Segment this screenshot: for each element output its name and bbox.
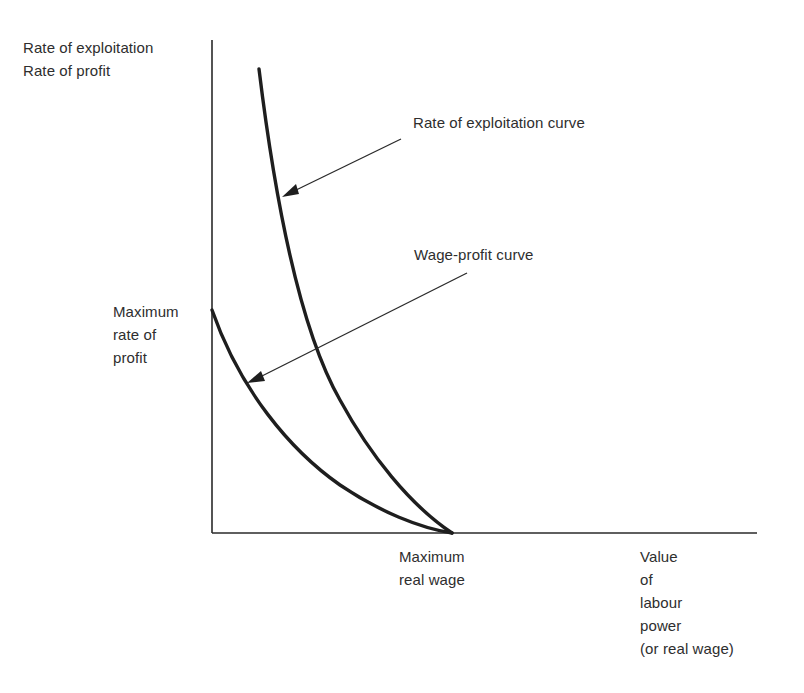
- x-axis-label-line-2: of: [640, 568, 734, 591]
- max-rate-of-profit-label: Maximum rate of profit: [113, 300, 179, 369]
- max-rate-label-line-3: profit: [113, 346, 179, 369]
- y-axis-label-line-2: Rate of profit: [23, 59, 153, 82]
- exploitation-curve-annotation-text: Rate of exploitation curve: [413, 111, 585, 134]
- exploitation-arrowhead-icon: [282, 184, 299, 197]
- max-rate-label-line-2: rate of: [113, 323, 179, 346]
- x-axis-label-line-3: labour: [640, 591, 734, 614]
- x-axis-label-line-4: power: [640, 614, 734, 637]
- x-axis-label-line-1: Value: [640, 545, 734, 568]
- max-wage-label-line-2: real wage: [399, 568, 465, 591]
- wage-profit-pointer-line: [258, 273, 467, 378]
- y-axis-label-line-1: Rate of exploitation: [23, 36, 153, 59]
- exploitation-pointer-line: [292, 139, 401, 192]
- y-axis-label: Rate of exploitation Rate of profit: [23, 36, 153, 82]
- x-axis-label: Value of labour power (or real wage): [640, 545, 734, 660]
- exploitation-curve: [259, 69, 452, 533]
- wage-profit-curve-annotation: Wage-profit curve: [414, 243, 534, 266]
- exploitation-curve-annotation: Rate of exploitation curve: [413, 111, 585, 134]
- max-real-wage-label: Maximum real wage: [399, 545, 465, 591]
- wage-profit-curve: [212, 310, 452, 533]
- max-rate-label-line-1: Maximum: [113, 300, 179, 323]
- wage-profit-curve-annotation-text: Wage-profit curve: [414, 243, 534, 266]
- wage-profit-diagram: Rate of exploitation Rate of profit Maxi…: [0, 0, 804, 693]
- x-axis-label-line-5: (or real wage): [640, 637, 734, 660]
- wage-profit-arrowhead-icon: [247, 371, 265, 383]
- max-wage-label-line-1: Maximum: [399, 545, 465, 568]
